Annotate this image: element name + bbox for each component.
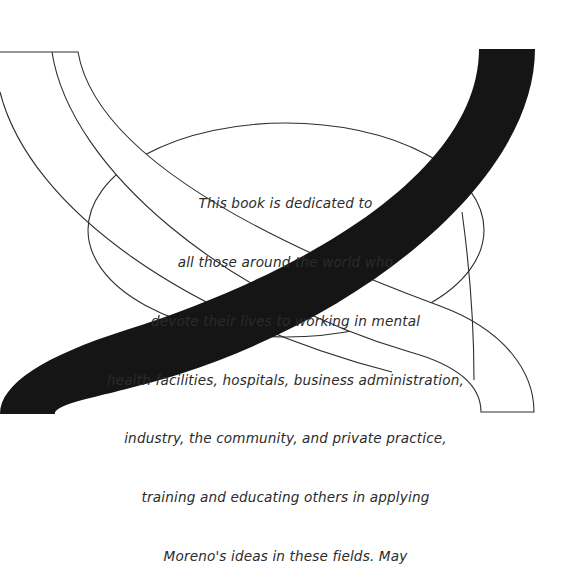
dedication-page: This book is dedicated to all those arou… — [0, 0, 571, 580]
decorative-artwork — [0, 0, 571, 580]
